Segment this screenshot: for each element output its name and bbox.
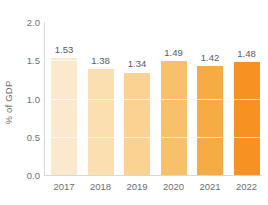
- bar-value-label: 1.42: [192, 52, 228, 63]
- bar-value-label: 1.49: [156, 47, 192, 58]
- bar-value-label: 1.38: [83, 55, 119, 66]
- bar: [51, 58, 77, 175]
- bar-value-label: 1.34: [119, 58, 155, 69]
- x-tick-label: 2018: [81, 181, 121, 192]
- x-tick-label: 2021: [190, 181, 230, 192]
- bar: [161, 61, 187, 175]
- bar: [88, 69, 114, 175]
- x-tick-label: 2022: [227, 181, 267, 192]
- x-tick-label: 2017: [44, 181, 84, 192]
- bar-value-label: 1.48: [229, 48, 265, 59]
- y-tick-label: 1.5: [4, 55, 40, 66]
- y-tick-label: 1.0: [4, 93, 40, 104]
- bar: [197, 66, 223, 175]
- bar-chart: % of GDP 2.0 1.5 1.0 0.5 0.0 1.5320171.3…: [0, 0, 268, 205]
- x-tick-label: 2019: [117, 181, 157, 192]
- bar-value-label: 1.53: [46, 44, 82, 55]
- x-tick-label: 2020: [154, 181, 194, 192]
- bar: [234, 62, 260, 175]
- y-tick-label: 0.0: [4, 170, 40, 181]
- bar: [124, 73, 150, 176]
- y-tick-label: 0.5: [4, 131, 40, 142]
- x-axis-line: [44, 175, 262, 176]
- y-tick-label: 2.0: [4, 17, 40, 28]
- y-axis-tick-labels: 2.0 1.5 1.0 0.5 0.0: [0, 0, 40, 205]
